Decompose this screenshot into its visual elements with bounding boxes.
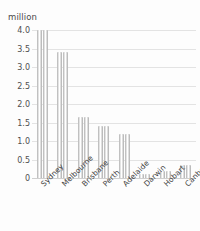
bar-group[interactable] (118, 134, 130, 178)
bar[interactable] (37, 30, 42, 178)
chart-screenshot: million 4.03.53.02.52.01.51.00.50 Sydney… (0, 0, 200, 231)
y-axis-tick-label: 4.0 (2, 26, 30, 35)
y-axis-tick-label: 2.0 (2, 100, 30, 109)
bar[interactable] (125, 134, 130, 178)
y-axis-tick-labels: 4.03.53.02.52.01.51.00.50 (0, 30, 30, 178)
y-axis-tick-label: 3.5 (2, 44, 30, 53)
y-axis-tick-label: 0.5 (2, 155, 30, 164)
bar[interactable] (104, 126, 109, 178)
y-axis-tick-label: 2.5 (2, 81, 30, 90)
x-axis-tick-labels: SydneyMelbourneBrisbanePerthAdelaideDarw… (32, 178, 196, 231)
bar[interactable] (57, 52, 62, 178)
bar[interactable] (43, 30, 48, 178)
bar-group[interactable] (36, 30, 48, 178)
y-axis-unit-label: million (8, 12, 37, 22)
bar[interactable] (63, 52, 68, 178)
y-axis-tick-label: 1.5 (2, 118, 30, 127)
y-axis-tick-label: 1.0 (2, 137, 30, 146)
y-axis-tick-label: 0 (2, 174, 30, 183)
y-axis-tick-label: 3.0 (2, 63, 30, 72)
gridline (32, 30, 196, 31)
bar-group[interactable] (57, 52, 69, 178)
plot-area (32, 30, 196, 178)
gridline (32, 49, 196, 50)
